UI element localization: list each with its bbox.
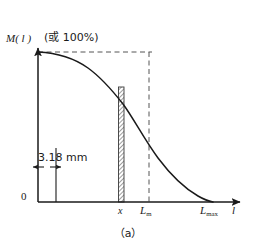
y-axis-label: M( l ) <box>6 33 31 44</box>
distribution-curve <box>38 52 213 202</box>
figure-container: M( l ) (或 100%) 0 3.18 mm x Lm Lmax l （a… <box>0 0 256 250</box>
y-axis-percent-note: (或 100%) <box>44 32 99 43</box>
tick-label-lmax-subscript: max <box>206 210 218 217</box>
tick-label-x: x <box>118 206 122 216</box>
tick-label-lm: Lm <box>140 205 151 216</box>
figure-caption: （a） <box>0 228 256 239</box>
x-axis-name: l <box>232 205 235 216</box>
tick-label-lm-subscript: m <box>146 210 151 217</box>
origin-label: 0 <box>21 191 27 202</box>
dimension-label: 3.18 mm <box>38 152 87 163</box>
tick-label-lmax: Lmax <box>200 205 218 216</box>
